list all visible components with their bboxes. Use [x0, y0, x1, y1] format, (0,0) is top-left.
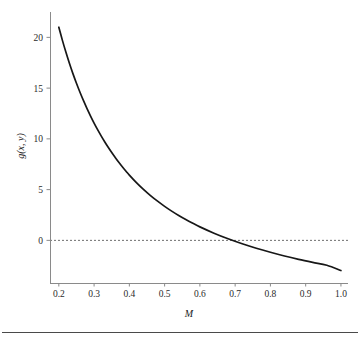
x-tick-label: 0.5: [159, 289, 171, 299]
x-tick-label: 1.0: [335, 289, 347, 299]
line-chart: 05101520 0.20.30.40.50.60.70.80.91.0 M g…: [0, 0, 360, 339]
x-tick-label: 0.2: [53, 289, 65, 299]
chart-figure: 05101520 0.20.30.40.50.60.70.80.91.0 M g…: [0, 0, 360, 339]
y-axis-label: g(x, y): [15, 133, 27, 159]
x-tick-label: 0.3: [88, 289, 100, 299]
x-tick-label: 0.4: [123, 289, 135, 299]
x-tick-label: 0.8: [264, 289, 276, 299]
y-tick-label: 15: [34, 84, 44, 94]
y-tick-label: 5: [38, 185, 43, 195]
y-tick-label: 20: [34, 33, 44, 43]
x-tick-label: 0.6: [194, 289, 206, 299]
y-tick-label: 0: [38, 236, 43, 246]
x-axis-label: M: [184, 308, 194, 319]
y-tick-label: 10: [34, 134, 44, 144]
x-tick-label: 0.9: [300, 289, 312, 299]
x-tick-label: 0.7: [229, 289, 241, 299]
